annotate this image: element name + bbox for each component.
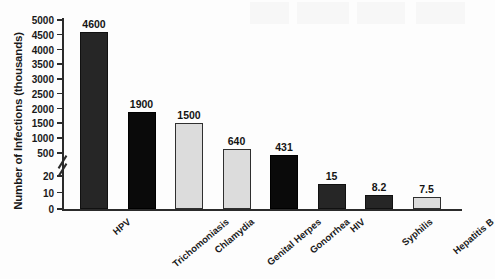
y-tick-label: 2500: [32, 88, 54, 99]
bar: [80, 32, 108, 209]
bar: [175, 123, 203, 209]
bar-value-label: 640: [228, 135, 246, 147]
y-tick-mark: [57, 78, 62, 80]
y-tick-mark: [57, 152, 62, 154]
y-tick-mark: [57, 49, 62, 51]
bar-value-label: 8.2: [372, 181, 387, 193]
y-tick-mark: [57, 122, 62, 124]
y-tick-label: 3500: [32, 59, 54, 70]
plot-area: 0102050010001500200025003000350040004500…: [62, 18, 462, 210]
bar: [413, 197, 441, 209]
y-tick-mark: [57, 108, 62, 110]
y-tick-label: 3000: [32, 74, 54, 85]
bar: [128, 112, 156, 209]
y-tick-label: 0: [48, 204, 54, 215]
bar: [365, 195, 393, 209]
y-tick-label: 4500: [32, 29, 54, 40]
bar: [223, 149, 251, 209]
bar-value-label: 4600: [82, 18, 105, 30]
y-axis-line: [62, 18, 64, 210]
x-axis-label: HPV: [111, 216, 133, 237]
y-tick-mark: [57, 93, 62, 95]
bar-value-label: 1900: [130, 98, 153, 110]
y-tick-label: 4000: [32, 44, 54, 55]
y-tick-mark: [57, 137, 62, 139]
y-axis-title: Number of Infections (thousands): [12, 11, 24, 231]
y-tick-mark: [57, 34, 62, 36]
y-tick-label: 1500: [32, 118, 54, 129]
y-tick-label: 10: [43, 187, 54, 198]
y-tick-label: 5000: [32, 15, 54, 26]
y-tick-label: 2000: [32, 103, 54, 114]
y-tick-mark: [57, 192, 62, 194]
y-tick-label: 500: [37, 148, 54, 159]
bar-value-label: 431: [275, 141, 293, 153]
x-axis-label: Hepatitis B: [450, 216, 495, 256]
x-axis-line: [62, 209, 462, 211]
y-tick-label: 20: [43, 171, 54, 182]
y-tick-mark: [57, 19, 62, 21]
bar-value-label: 1500: [177, 109, 200, 121]
x-axis-label: Syphilis: [400, 216, 435, 248]
bar-value-label: 7.5: [419, 183, 434, 195]
y-tick-mark: [57, 208, 62, 210]
y-tick-mark: [57, 63, 62, 65]
bar-value-label: 15: [326, 170, 338, 182]
bar: [318, 184, 346, 209]
x-axis-label: HIV: [347, 216, 366, 235]
y-tick-label: 1000: [32, 133, 54, 144]
bar: [270, 155, 298, 209]
